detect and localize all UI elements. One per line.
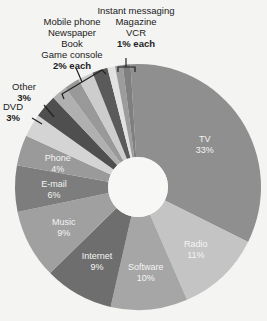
- callout-pct-dvd: 3%: [3, 112, 23, 123]
- slice-label-radio: Radio11%: [184, 239, 208, 260]
- callout-label-other: Other: [12, 81, 36, 92]
- callout-label-instant-messaging: Instant messaging: [97, 5, 174, 16]
- callout-label-book: Book: [41, 38, 102, 49]
- callout-pct-1pct: 1% each: [97, 38, 174, 49]
- callout-label-newspaper: Newspaper: [41, 27, 102, 38]
- callout-pct-2pct: 2% each: [41, 60, 102, 71]
- callout-2pct-group: Mobile phone Newspaper Book Game console…: [41, 16, 102, 71]
- callout-dvd: DVD 3%: [3, 101, 23, 123]
- callout-1pct-group: Instant messaging Magazine VCR 1% each: [97, 5, 174, 49]
- callout-other: Other 3%: [12, 81, 36, 103]
- callout-label-mobile-phone: Mobile phone: [41, 16, 102, 27]
- callout-label-game-console: Game console: [41, 49, 102, 60]
- callout-label-vcr: VCR: [97, 27, 174, 38]
- callout-label-dvd: DVD: [3, 101, 23, 112]
- donut-hole: [108, 157, 168, 217]
- callout-label-magazine: Magazine: [97, 16, 174, 27]
